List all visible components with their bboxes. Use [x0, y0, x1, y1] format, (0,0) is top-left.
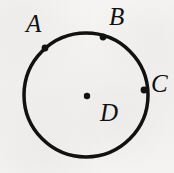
circle-diagram-figure: A B C D: [0, 0, 174, 173]
point-marker-c: [141, 87, 148, 94]
point-label-a: A: [26, 11, 41, 36]
point-label-b: B: [109, 4, 124, 29]
center-label-d: D: [100, 100, 118, 125]
point-marker-b: [100, 34, 107, 41]
point-marker-a: [42, 45, 49, 52]
point-label-c: C: [151, 71, 168, 96]
center-dot: [84, 93, 90, 99]
